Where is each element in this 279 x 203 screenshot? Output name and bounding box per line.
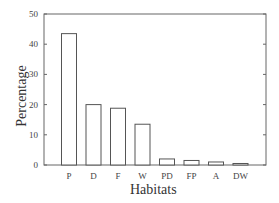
x-tick-label: PD <box>161 171 173 181</box>
bar-a <box>209 162 224 165</box>
x-tick-label: P <box>66 171 71 181</box>
y-tick-label: 0 <box>34 160 39 170</box>
bar-chart: 01020304050PDFWPDFPADW <box>0 0 279 203</box>
bar-w <box>135 124 150 165</box>
bar-pd <box>160 159 175 165</box>
y-tick-label: 20 <box>29 100 39 110</box>
x-tick-label: W <box>138 171 147 181</box>
x-tick-label: F <box>115 171 120 181</box>
x-tick-label: A <box>213 171 220 181</box>
bar-f <box>111 108 126 165</box>
x-axis-label: Habitats <box>130 182 177 198</box>
plot-frame <box>44 14 266 165</box>
x-tick-label: DW <box>233 171 248 181</box>
y-axis-label: Percentage <box>14 56 30 136</box>
x-tick-label: FP <box>186 171 196 181</box>
y-tick-label: 40 <box>29 39 39 49</box>
bar-d <box>86 105 101 165</box>
y-tick-label: 10 <box>29 130 39 140</box>
bar-fp <box>184 160 199 165</box>
bar-p <box>62 34 77 165</box>
y-tick-label: 30 <box>29 69 39 79</box>
x-tick-label: D <box>90 171 97 181</box>
y-tick-label: 50 <box>29 9 39 19</box>
bar-dw <box>233 163 248 165</box>
